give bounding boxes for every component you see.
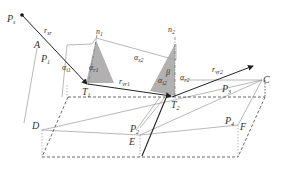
- svg-text:n2: n2: [168, 25, 175, 35]
- svg-text:αi1: αi1: [62, 63, 71, 73]
- svg-text:T1: T1: [82, 86, 91, 98]
- svg-text:rsr: rsr: [44, 26, 52, 36]
- svg-text:β: β: [165, 68, 170, 77]
- svg-text:P1: P1: [40, 53, 50, 65]
- svg-text:rvr1: rvr1: [119, 77, 130, 87]
- svg-text:n1: n1: [96, 27, 103, 37]
- angle-wedge-n1: [86, 40, 114, 83]
- svg-text:αr2: αr2: [180, 73, 190, 83]
- svg-text:P3: P3: [221, 83, 231, 95]
- svg-text:rvr2: rvr2: [212, 65, 223, 75]
- svg-text:P2: P2: [129, 123, 139, 135]
- svg-text:αs2: αs2: [134, 53, 144, 63]
- angle-wedge-n2: [150, 44, 175, 96]
- reflection-plane-outlines: [24, 38, 262, 157]
- svg-text:P4: P4: [224, 115, 234, 127]
- svg-text:Ps: Ps: [6, 13, 16, 25]
- svg-text:T2: T2: [171, 99, 180, 111]
- svg-text:C: C: [263, 74, 270, 85]
- svg-text:D: D: [31, 120, 40, 131]
- source-point: [20, 13, 24, 17]
- svg-text:F: F: [239, 121, 247, 132]
- svg-text:E: E: [128, 136, 135, 147]
- svg-text:A: A: [33, 39, 41, 50]
- ray-reflection-diagram: Ps rsr A P1 αi1 αr1 T1 n1 αs2 rvr1 n2 αi…: [0, 0, 283, 172]
